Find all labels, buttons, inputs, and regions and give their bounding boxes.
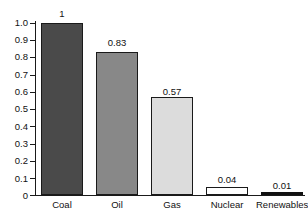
bar-value-label: 0.04	[206, 175, 248, 185]
bars-layer: 1 Coal 0.83 Oil 0.57 Gas 0.04 Nuclear 0.…	[0, 0, 308, 221]
bar-value-label: 0.83	[96, 38, 138, 48]
x-tick-label-renewables: Renewables	[256, 199, 308, 210]
bar-value-label: 0.57	[151, 87, 193, 97]
bar-gas[interactable]	[151, 97, 193, 195]
x-tick-label-coal: Coal	[41, 199, 83, 210]
x-tick-label-nuclear: Nuclear	[206, 199, 248, 210]
bar-value-label: 1	[41, 9, 83, 19]
bar-renewables[interactable]	[261, 192, 303, 195]
x-tick-label-gas: Gas	[151, 199, 193, 210]
bar-coal[interactable]	[41, 23, 83, 195]
bar-nuclear[interactable]	[206, 187, 248, 195]
x-tick-label-oil: Oil	[96, 199, 138, 210]
bar-oil[interactable]	[96, 52, 138, 195]
bar-value-label: 0.01	[261, 181, 303, 191]
bar-chart: 1.0 0.9 0.8 0.7 0.6 0.5 0.4 0.3 0.2 0.1 …	[0, 0, 308, 221]
